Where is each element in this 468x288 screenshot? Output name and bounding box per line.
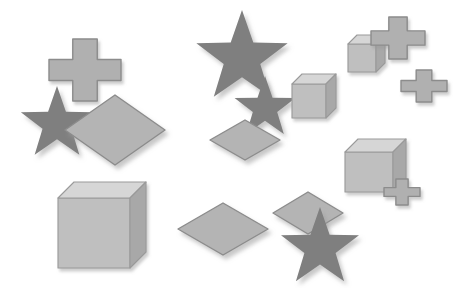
cross-top-left — [49, 39, 121, 101]
diamond-bottom-center — [178, 203, 268, 255]
cube-center — [292, 74, 336, 118]
cube-bottom-left — [58, 182, 146, 268]
scene-canvas — [0, 0, 468, 288]
diamond-bottom-right — [273, 192, 343, 234]
diamond-center — [210, 120, 280, 160]
diamond-large-left — [65, 95, 165, 165]
star-large-center — [196, 10, 287, 97]
shape-scene — [0, 0, 468, 288]
cross-right — [401, 70, 447, 102]
